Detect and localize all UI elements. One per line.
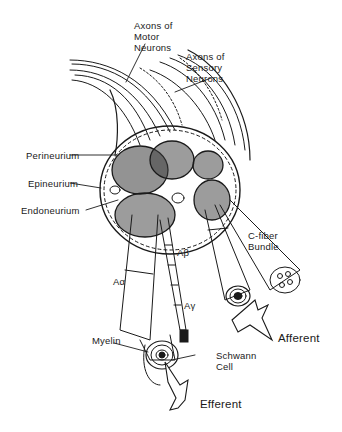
myelin-cross-section-afferent <box>226 286 250 306</box>
a-alpha-fiber <box>120 215 175 385</box>
label-afferent: Afferent <box>278 332 320 345</box>
label-schwann-cell: Schwann Cell <box>216 350 256 372</box>
label-perineurium: Perineurium <box>26 150 79 161</box>
nerve-diagram <box>0 0 342 432</box>
label-c-fiber-bundle: C-fiber Bundle <box>248 230 279 252</box>
label-axons-motor-neurons: Axons of Motor Neurons <box>134 20 173 53</box>
label-efferent: Efferent <box>200 398 242 411</box>
efferent-arrow <box>165 362 188 410</box>
label-myelin: Myelin <box>92 335 121 346</box>
label-a-gamma: Aγ <box>184 300 196 311</box>
myelin-cross-section-efferent <box>146 341 178 369</box>
label-epineurium: Epineurium <box>28 178 78 189</box>
a-gamma-fiber <box>160 218 188 342</box>
label-endoneurium: Endoneurium <box>21 205 80 216</box>
label-a-beta: Aβ <box>177 247 189 258</box>
label-a-alpha: Aα <box>113 276 125 287</box>
label-axons-sensory-neurons: Axons of Sensory Neurons <box>186 51 225 84</box>
nerve-cross-section <box>100 126 240 254</box>
